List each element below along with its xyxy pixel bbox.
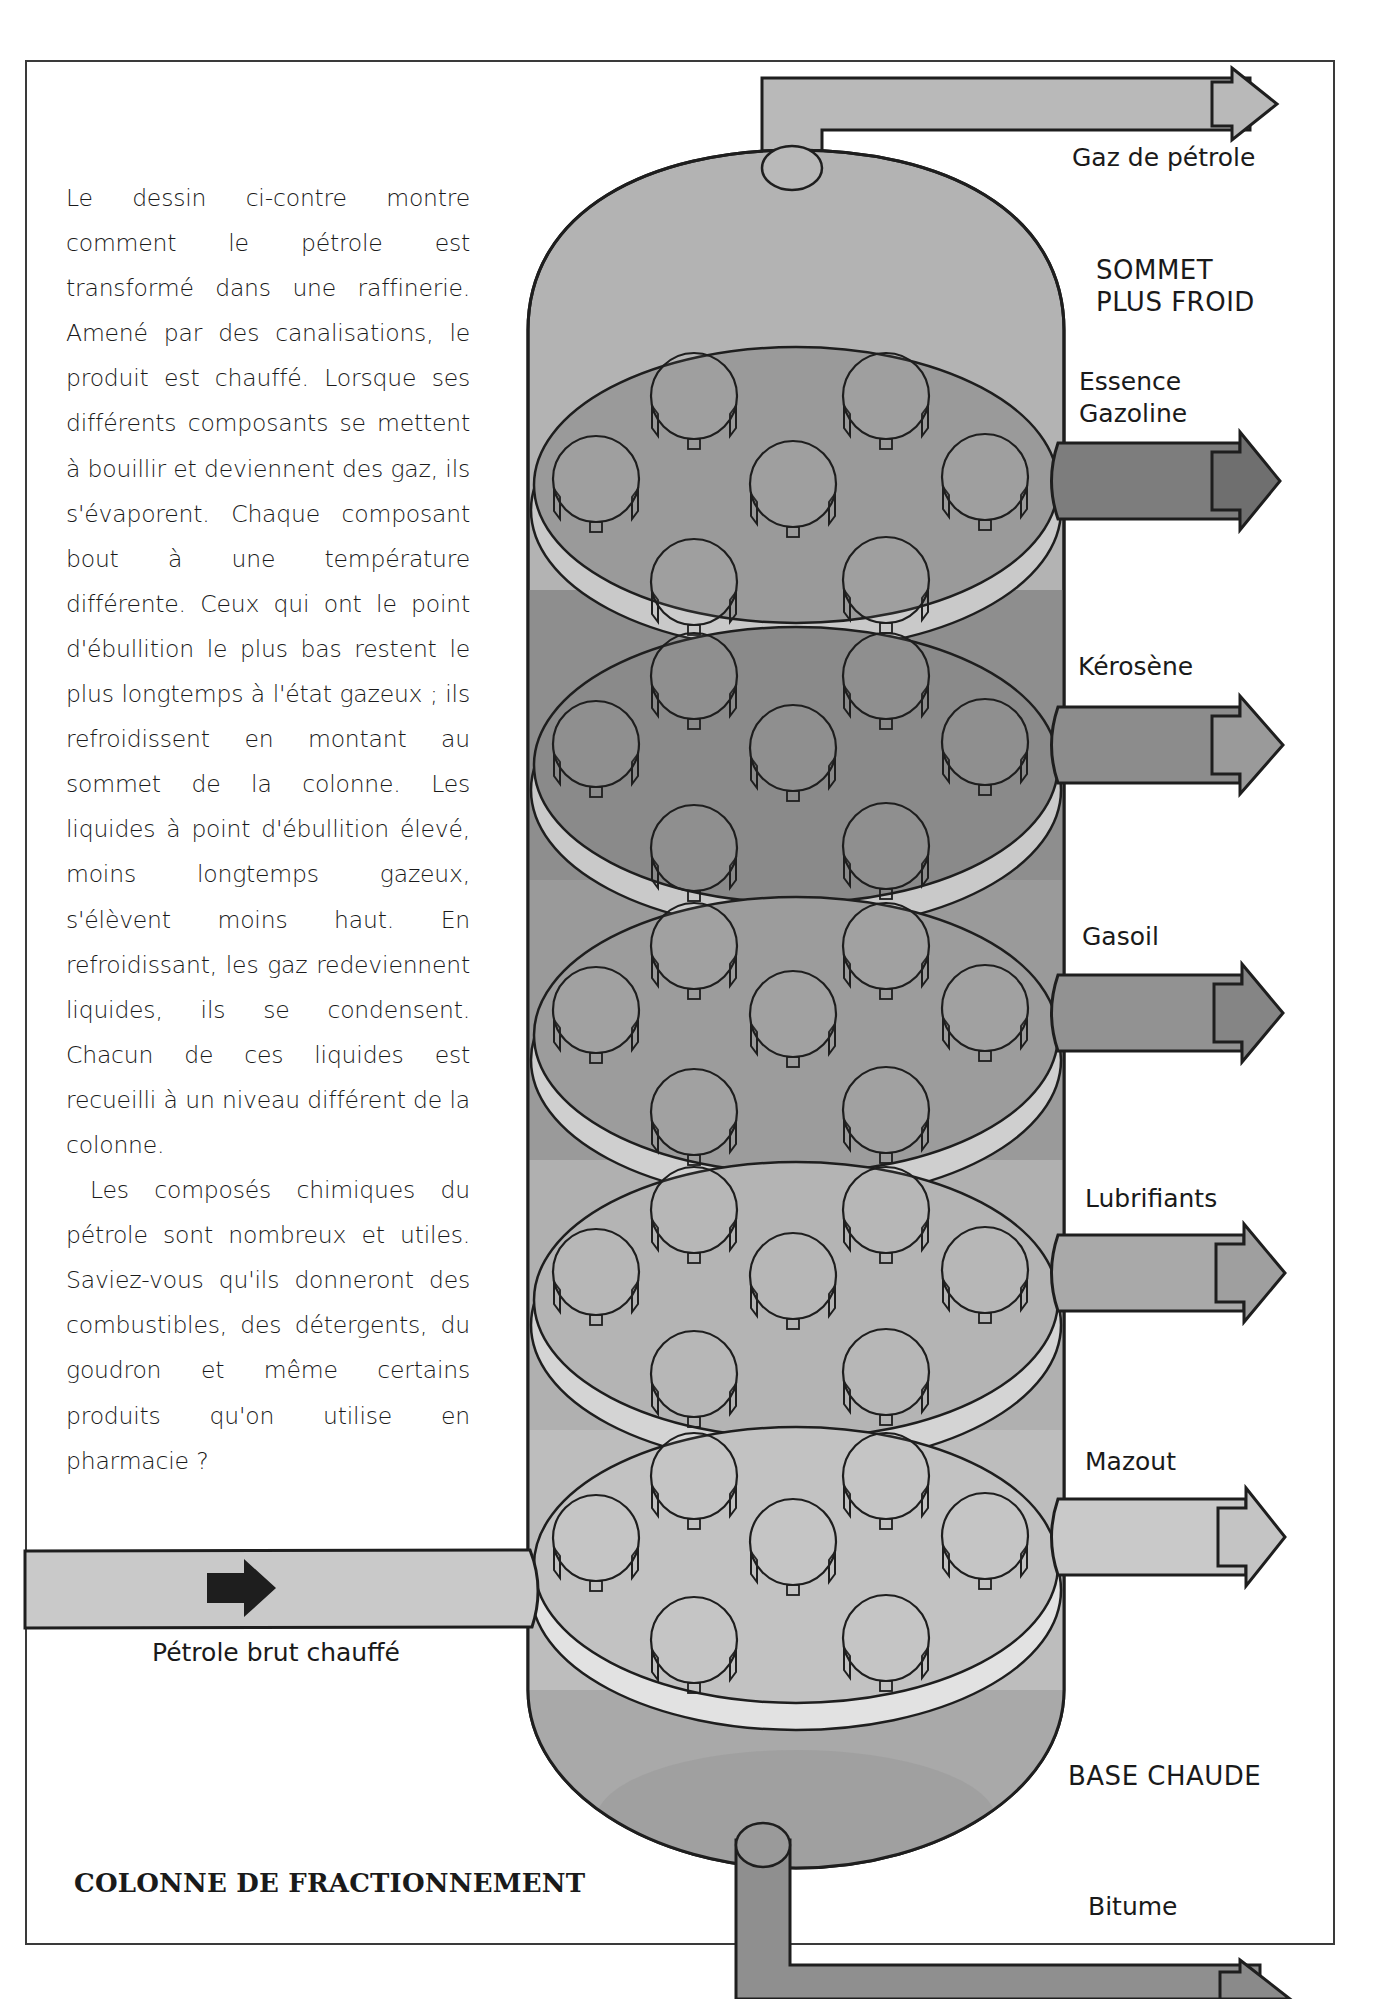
label-gaz-de-petrole: Gaz de pétrole [1072, 142, 1255, 174]
label-bitume: Bitume [1088, 1891, 1177, 1923]
tray-3 [531, 897, 1061, 1200]
body-text: Le dessin ci-contre montre comment le pé… [66, 176, 470, 1484]
top-pipe-opening [762, 146, 822, 190]
tray-2 [531, 627, 1061, 930]
tray-1 [531, 347, 1061, 650]
label-mazout: Mazout [1085, 1446, 1176, 1478]
tray-4 [531, 1162, 1061, 1465]
label-plus-froid: PLUS FROID [1096, 286, 1255, 318]
inlet-pipe [25, 1550, 538, 1628]
label-kerosene: Kérosène [1078, 651, 1193, 683]
label-essence: Essence [1079, 366, 1187, 398]
label-essence-gazoline: Essence Gazoline [1079, 366, 1187, 430]
label-top-zone: SOMMET PLUS FROID [1096, 254, 1255, 318]
essence-outlet-pipe [1052, 432, 1281, 530]
page-title: COLONNE DE FRACTIONNEMENT [74, 1868, 585, 1898]
label-petrole-brut-chauffe: Pétrole brut chauffé [152, 1638, 400, 1667]
label-gasoil: Gasoil [1082, 921, 1159, 953]
label-lubrifiants: Lubrifiants [1085, 1183, 1217, 1215]
label-sommet: SOMMET [1096, 254, 1255, 286]
label-base-chaude: BASE CHAUDE [1068, 1760, 1261, 1792]
mazout-outlet-pipe [1052, 1488, 1286, 1586]
paragraph-1: Le dessin ci-contre montre comment le pé… [66, 176, 470, 1168]
paragraph-2: Les composés chimiques du pétrole sont n… [66, 1168, 470, 1484]
kerosene-outlet-pipe [1052, 696, 1284, 794]
tray-5 [531, 1427, 1061, 1730]
lubrifiants-outlet-pipe [1052, 1224, 1286, 1322]
gasoil-outlet-pipe [1052, 964, 1284, 1062]
label-gazoline: Gazoline [1079, 398, 1187, 430]
